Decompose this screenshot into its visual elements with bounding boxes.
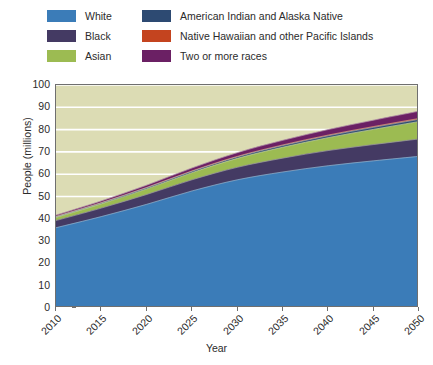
area-chart-svg (56, 85, 417, 306)
legend-swatch-native-hawaiian-and-other-pacific-islands (142, 30, 171, 42)
x-tick-mark (55, 307, 56, 311)
x-axis-title: Year (0, 342, 433, 354)
plot-area (55, 84, 418, 307)
y-tick-label: 20 (24, 256, 50, 268)
legend-item-native-hawaiian-and-other-pacific-islands[interactable]: Native Hawaiian and other Pacific Island… (142, 30, 412, 42)
y-tick-label: 80 (24, 123, 50, 135)
y-tick-label: 40 (24, 212, 50, 224)
legend-swatch-black (47, 30, 76, 42)
legend-item-white[interactable]: White (47, 10, 142, 22)
x-tick-mark (418, 307, 419, 311)
x-tick-mark (100, 307, 101, 311)
legend-swatch-american-indian-and-alaska-native (142, 10, 171, 22)
legend-label-american-indian-and-alaska-native: American Indian and Alaska Native (180, 10, 343, 22)
legend-item-asian[interactable]: Asian (47, 50, 142, 62)
legend-label-native-hawaiian-and-other-pacific-islands: Native Hawaiian and other Pacific Island… (180, 30, 373, 42)
y-tick-label: 60 (24, 167, 50, 179)
legend-swatch-asian (47, 50, 76, 62)
legend-label-two-or-more-races: Two or more races (180, 50, 267, 62)
population-area-chart: White American Indian and Alaska Native … (0, 0, 433, 365)
x-tick-mark (373, 307, 374, 311)
x-tick-mark (282, 307, 283, 311)
y-tick-label: 50 (24, 190, 50, 202)
x-tick-label: 2045 (347, 312, 381, 346)
legend-item-american-indian-and-alaska-native[interactable]: American Indian and Alaska Native (142, 10, 412, 22)
legend-swatch-white (47, 10, 76, 22)
chart-legend: White American Indian and Alaska Native … (47, 6, 427, 66)
legend-item-two-or-more-races[interactable]: Two or more races (142, 50, 412, 62)
x-tick-label: 2015 (75, 312, 109, 346)
x-tick-mark (146, 307, 147, 311)
legend-swatch-two-or-more-races (142, 50, 171, 62)
x-tick-label: 2050 (393, 312, 427, 346)
x-tick-label: 2040 (302, 312, 336, 346)
legend-row: Asian Two or more races (47, 46, 427, 66)
y-tick-label: 70 (24, 145, 50, 157)
x-tick-label: 2025 (166, 312, 200, 346)
legend-label-asian: Asian (85, 50, 111, 62)
y-axis-ticks: 0102030405060708090100 (22, 84, 50, 307)
y-tick-label: 30 (24, 234, 50, 246)
y-tick-label: 100 (24, 78, 50, 90)
legend-row: White American Indian and Alaska Native (47, 6, 427, 26)
x-tick-label: 2010 (30, 312, 64, 346)
legend-item-black[interactable]: Black (47, 30, 142, 42)
x-tick-label: 2030 (211, 312, 245, 346)
legend-label-white: White (85, 10, 112, 22)
x-tick-mark (191, 307, 192, 311)
y-tick-label: 90 (24, 100, 50, 112)
x-tick-mark (327, 307, 328, 311)
y-tick-label: 10 (24, 279, 50, 291)
x-tick-label: 2035 (256, 312, 290, 346)
legend-label-black: Black (85, 30, 111, 42)
legend-row: Black Native Hawaiian and other Pacific … (47, 26, 427, 46)
plot-inner (56, 85, 417, 306)
x-tick-mark (237, 307, 238, 311)
x-tick-label: 2020 (120, 312, 154, 346)
